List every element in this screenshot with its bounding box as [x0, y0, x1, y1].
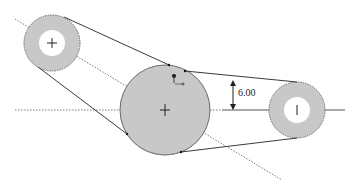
- tangent-point: [180, 151, 182, 153]
- tangent-point: [126, 133, 128, 135]
- dimension-label: 6.00: [238, 87, 256, 98]
- diagram-canvas: 6.00: [0, 0, 354, 192]
- tangent-point: [184, 70, 186, 72]
- belt-segment-left-bottom[interactable]: [38, 67, 127, 134]
- left-pulley[interactable]: [24, 15, 80, 71]
- tangent-point: [168, 64, 170, 66]
- belt-segment-right-top[interactable]: [185, 71, 297, 82]
- dimension-6-00[interactable]: 6.00: [230, 80, 256, 110]
- center-pulley[interactable]: [120, 65, 210, 155]
- right-pulley[interactable]: [269, 82, 325, 138]
